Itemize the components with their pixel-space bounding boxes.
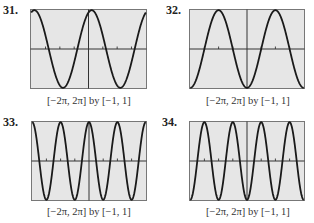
window-caption: [−2π, 2π] by [−1, 1] — [206, 95, 290, 106]
problem-number: 32. — [166, 3, 181, 18]
graph-32 — [189, 9, 305, 89]
problem-number: 34. — [162, 115, 177, 130]
window-caption: [−2π, 2π] by [−1, 1] — [47, 206, 131, 217]
window-caption: [−2π, 2π] by [−1, 1] — [206, 206, 290, 217]
problem-number: 33. — [3, 115, 18, 130]
problem-number: 31. — [3, 3, 18, 18]
graph-31 — [30, 9, 147, 89]
graph-33 — [31, 121, 147, 201]
graph-34 — [189, 121, 305, 201]
window-caption: [−2π, 2π] by [−1, 1] — [47, 95, 131, 106]
